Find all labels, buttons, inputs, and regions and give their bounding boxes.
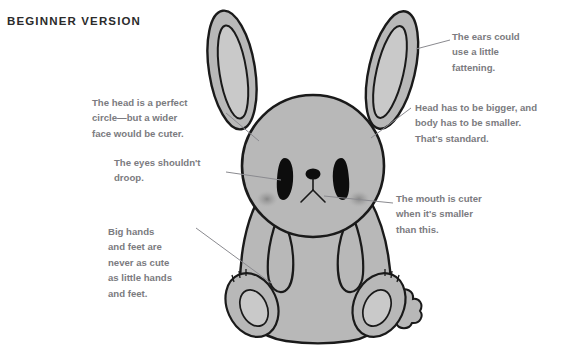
callout-head-shape: The head is a perfect circle—but a wider…	[92, 95, 224, 141]
page-title: BEGINNER VERSION	[7, 15, 141, 27]
head-circle	[242, 95, 384, 237]
callout-hands-feet: Big hands and feet are never as cute as …	[108, 224, 198, 301]
callout-eyes: The eyes shouldn't droop.	[114, 155, 224, 186]
left-blush	[255, 190, 279, 208]
nose	[306, 169, 321, 180]
callout-head-body-ratio: Head has to be bigger, and body has to b…	[415, 100, 567, 146]
callout-mouth: The mouth is cuter when it's smaller tha…	[396, 191, 504, 237]
callout-ears: The ears could use a little fattening.	[452, 29, 564, 75]
rabbit-head	[242, 95, 384, 237]
leader-line-ears	[416, 40, 450, 49]
diagram-canvas: BEGINNER VERSION The head is a perfect c…	[0, 0, 577, 354]
